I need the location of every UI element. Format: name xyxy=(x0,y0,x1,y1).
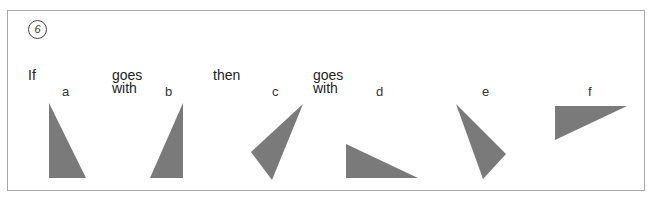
triangle-e xyxy=(456,104,506,179)
triangle-f xyxy=(555,106,627,140)
triangle-c xyxy=(251,104,303,180)
shapes-layer xyxy=(0,0,650,200)
triangle-b xyxy=(150,103,183,178)
triangle-a xyxy=(49,103,86,178)
triangle-d xyxy=(346,144,418,178)
